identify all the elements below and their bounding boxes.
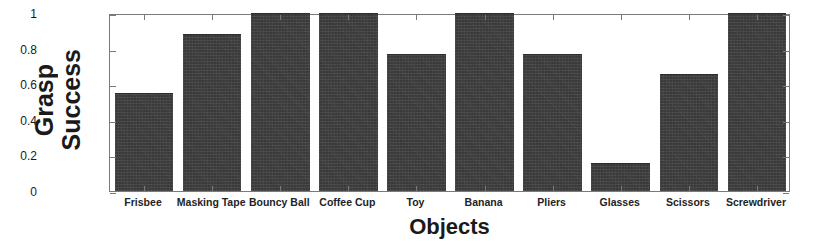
x-axis-tick: [621, 186, 622, 191]
y-axis-tick-label: 0.2: [0, 149, 37, 163]
x-axis-tick-label: Glasses: [600, 196, 640, 208]
x-axis-tick-label: Toy: [406, 196, 424, 208]
y-axis-tick-right: [783, 15, 789, 16]
x-axis-tick-top: [757, 15, 758, 20]
bar: [183, 34, 242, 191]
x-axis-tick-top: [212, 15, 213, 20]
x-axis-tick-label: Banana: [465, 196, 503, 208]
x-axis-tick-label: Masking Tape: [177, 196, 246, 208]
y-axis-tick: [110, 157, 116, 158]
y-axis-tick-right: [783, 51, 789, 52]
y-axis-tick-label: 0.6: [0, 78, 37, 92]
x-axis-tick-top: [348, 15, 349, 20]
x-axis-tick-top: [144, 15, 145, 20]
x-axis-tick-top: [280, 15, 281, 20]
x-axis-tick-label: Scissors: [666, 196, 710, 208]
bar: [523, 54, 582, 191]
y-axis-tick: [110, 122, 116, 123]
plot-area: [109, 14, 790, 192]
y-axis-title-line-2: Success: [59, 49, 84, 150]
bar: [115, 93, 174, 191]
x-axis-tick: [485, 186, 486, 191]
x-axis-tick-top: [553, 15, 554, 20]
y-axis-tick: [110, 15, 116, 16]
y-axis-tick: [110, 193, 116, 194]
bar: [728, 13, 787, 191]
y-axis-tick-right: [783, 122, 789, 123]
x-axis-tick: [144, 186, 145, 191]
y-axis-tick: [110, 51, 116, 52]
y-axis-tick: [110, 86, 116, 87]
x-axis-tick: [689, 186, 690, 191]
x-axis-tick-label: Coffee Cup: [319, 196, 375, 208]
y-axis-tick-label: 0.4: [0, 114, 37, 128]
x-axis-tick-top: [689, 15, 690, 20]
x-axis-tick-top: [485, 15, 486, 20]
y-axis-tick-label: 0: [0, 185, 37, 199]
x-axis-tick-top: [416, 15, 417, 20]
x-axis-title: Objects: [109, 214, 790, 240]
x-axis-tick: [416, 186, 417, 191]
x-axis-tick-label: Pliers: [537, 196, 566, 208]
y-axis-tick-right: [783, 193, 789, 194]
y-axis-tick-label: 1: [0, 7, 37, 21]
x-axis-tick-top: [621, 15, 622, 20]
x-axis-tick-label: Bouncy Ball: [249, 196, 310, 208]
bar: [319, 13, 378, 191]
y-axis-tick-label: 0.8: [0, 43, 37, 57]
y-axis-title: Grasp Success: [10, 0, 106, 200]
bar-chart-figure: Grasp Success 00.20.40.60.81 FrisbeeMask…: [0, 0, 831, 249]
y-axis-tick-right: [783, 86, 789, 87]
x-axis-tick: [212, 186, 213, 191]
x-axis-tick-label: Frisbee: [124, 196, 161, 208]
bar: [387, 54, 446, 191]
y-axis-tick-right: [783, 157, 789, 158]
x-axis-tick: [348, 186, 349, 191]
bar: [251, 13, 310, 191]
bar: [455, 13, 514, 191]
x-axis-tick: [757, 186, 758, 191]
x-axis-tick: [553, 186, 554, 191]
x-axis-tick: [280, 186, 281, 191]
bar: [660, 74, 719, 191]
x-axis-tick-label: Screwdriver: [726, 196, 786, 208]
